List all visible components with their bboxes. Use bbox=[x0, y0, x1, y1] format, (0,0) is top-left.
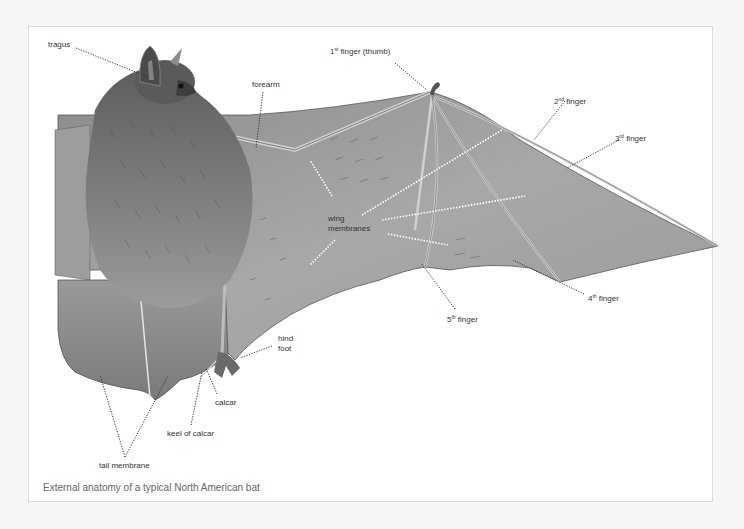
bat-body bbox=[86, 70, 253, 308]
label-5th-finger-text: finger bbox=[456, 315, 478, 324]
label-2nd-finger-text: finger bbox=[564, 97, 586, 106]
label-hind-foot: hind foot bbox=[278, 334, 293, 354]
bat-illustration bbox=[0, 0, 744, 529]
label-forearm: forearm bbox=[252, 80, 280, 90]
label-4th-finger-text: finger bbox=[597, 294, 619, 303]
label-5th-finger: 5th finger bbox=[447, 312, 478, 325]
label-2nd-finger: 2nd finger bbox=[554, 94, 586, 107]
figure-caption: External anatomy of a typical North Amer… bbox=[43, 482, 260, 493]
label-tail-membrane: tail membrane bbox=[99, 461, 150, 471]
label-1st-finger-text: finger (thumb) bbox=[338, 47, 390, 56]
label-tragus: tragus bbox=[48, 40, 70, 50]
label-hind-foot-line2: foot bbox=[278, 344, 293, 354]
label-keel-of-calcar: keel of calcar bbox=[167, 429, 214, 439]
label-wing-membranes-line2: membranes bbox=[328, 224, 370, 234]
label-3rd-finger-text: finger bbox=[624, 134, 646, 143]
label-3rd-finger: 3rd finger bbox=[615, 131, 646, 144]
label-1st-finger: 1st finger (thumb) bbox=[330, 44, 390, 57]
label-4th-finger: 4th finger bbox=[588, 291, 619, 304]
label-wing-membranes: wing membranes bbox=[328, 214, 370, 234]
label-calcar: calcar bbox=[215, 398, 236, 408]
label-hind-foot-line1: hind bbox=[278, 334, 293, 344]
label-wing-membranes-line1: wing bbox=[328, 214, 370, 224]
